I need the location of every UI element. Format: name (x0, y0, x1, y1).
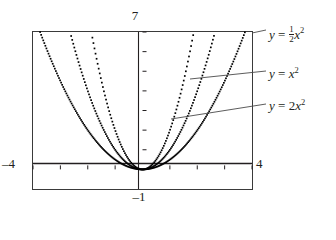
curve-point (215, 99, 217, 101)
curve-point (77, 114, 79, 116)
curve-point (189, 110, 191, 112)
curve-point (168, 151, 170, 153)
curve-point (108, 139, 110, 141)
curve-point (206, 114, 208, 116)
equation-label-x-squared: y = x2 (269, 66, 299, 80)
curve-point (84, 126, 86, 128)
curve-point (235, 56, 237, 58)
curve-point (175, 139, 177, 141)
curve-point (89, 96, 91, 98)
curve-point (213, 103, 215, 105)
curve-point (106, 103, 108, 105)
curve-point (220, 89, 222, 91)
curve-point (70, 35, 72, 37)
curve-point (176, 109, 178, 111)
curve-point (197, 129, 199, 131)
curve-point (117, 136, 119, 138)
curve-point (94, 110, 96, 112)
curve-point (208, 110, 210, 112)
curve-point (237, 50, 239, 52)
curve-point (195, 93, 197, 95)
curve-point (40, 34, 42, 36)
curve-point (193, 99, 195, 101)
curve-point (185, 120, 187, 122)
curve-point (97, 63, 99, 65)
curve-point (76, 112, 78, 114)
curve-point (201, 123, 203, 125)
curve-point (105, 133, 107, 135)
curve-point (188, 113, 190, 115)
curve-point (159, 153, 161, 155)
curve-point (114, 149, 116, 151)
curve-point (244, 31, 246, 33)
curve-point (198, 127, 200, 129)
curve-point (88, 130, 90, 132)
curve-point (187, 61, 189, 63)
curve-point (227, 73, 229, 75)
curve-point (73, 107, 75, 109)
curve-point (51, 60, 53, 62)
curve-point (109, 141, 111, 143)
axis-label-bottom: –1 (133, 190, 146, 203)
curve-point (168, 132, 170, 134)
eq-half-numerator: 1 (289, 25, 294, 34)
curve-point (190, 107, 192, 109)
curve-point (103, 90, 105, 92)
curve-point (157, 157, 159, 159)
curve-point (225, 77, 227, 79)
curve-point (114, 127, 116, 129)
curve-point (103, 129, 105, 131)
curve-point (182, 84, 184, 86)
curve-point (53, 65, 55, 67)
curve-point (167, 135, 169, 137)
curve-point (125, 154, 127, 156)
curve-point (196, 130, 198, 132)
curve-point (71, 39, 73, 41)
curve-point (228, 70, 230, 72)
curve-point (207, 58, 209, 60)
curve-point (85, 127, 87, 129)
axis-label-left: –4 (2, 157, 15, 170)
curve-point (76, 54, 78, 56)
curve-point (62, 86, 64, 88)
curve-point (107, 107, 109, 109)
curve-point (210, 47, 212, 49)
curve-point (75, 110, 77, 112)
curve-point (116, 133, 118, 135)
curve-point (155, 160, 157, 162)
curve-point (72, 43, 74, 45)
curve-point (126, 156, 128, 158)
curve-point (46, 48, 48, 50)
curve-point (209, 109, 211, 111)
curve-point (212, 39, 214, 41)
curve-point (67, 95, 69, 97)
curve-point (81, 121, 83, 123)
curve-point (41, 37, 43, 39)
curve-point (178, 133, 180, 135)
curve-point (219, 91, 221, 93)
eq-two-equals: = (278, 98, 285, 113)
curve-point (163, 145, 165, 147)
curve-point (208, 54, 210, 56)
curve-point (112, 146, 114, 148)
curve-point (102, 127, 104, 129)
curve-point (60, 82, 62, 84)
curve-point (58, 77, 60, 79)
curve-point (75, 50, 77, 52)
curve-point (243, 34, 245, 36)
curve-point (216, 97, 218, 99)
curve-point (50, 58, 52, 60)
curve-point (222, 84, 224, 86)
eq-half-exponent: 2 (300, 25, 304, 35)
curve-point (109, 114, 111, 116)
curve-point (49, 55, 51, 57)
curve-point (236, 53, 238, 55)
curve-point (122, 148, 124, 150)
curve-point (121, 146, 123, 148)
curve-point (54, 68, 56, 70)
curve-point (115, 130, 117, 132)
curve-point (173, 143, 175, 145)
curve-point (221, 86, 223, 88)
curve-point (55, 70, 57, 72)
curve-point (205, 116, 207, 118)
